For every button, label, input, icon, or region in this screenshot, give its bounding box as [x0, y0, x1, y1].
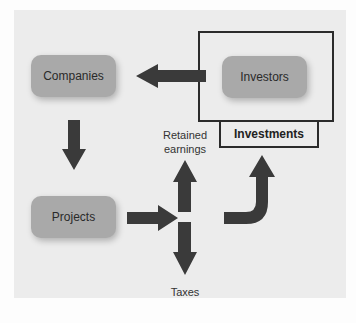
arrow-up-icon [173, 160, 197, 212]
arrow-right-icon [127, 205, 178, 231]
arrow-down-icon [62, 120, 86, 170]
arrows-layer [0, 0, 356, 323]
arrow-down-taxes-icon [173, 222, 197, 275]
arrow-curved-up-icon [224, 155, 275, 224]
arrow-left-icon [136, 64, 206, 88]
